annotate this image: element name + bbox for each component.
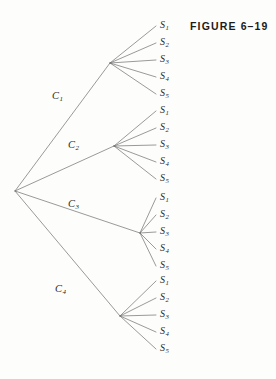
tree-edge-C1-S2 [110,43,156,63]
leaf-label-C3-S5: S5 [160,260,168,270]
label-subscript: 5 [165,264,168,271]
tree-diagram-svg [0,0,276,379]
leaf-label-C2-S4: S4 [160,156,168,166]
label-subscript: 2 [165,41,168,48]
label-subscript: 2 [165,126,168,133]
label-subscript: 3 [165,58,168,65]
tree-edge-C4-S2 [120,298,156,316]
label-subscript: 5 [165,92,168,99]
leaf-label-C4-S3: S3 [160,309,168,319]
label-base: C [55,283,62,294]
tree-edge-C2-S1 [114,111,156,146]
tree-edge-C4-S3 [120,315,156,316]
leaf-label-C3-S1: S1 [160,192,168,202]
tree-edge-C3-S2 [140,215,156,233]
leaf-label-C4-S5: S5 [160,343,168,353]
leaf-label-C2-S5: S5 [160,173,168,183]
label-subscript: 3 [165,230,168,237]
leaf-label-C1-S3: S3 [160,54,168,64]
label-subscript: 2 [165,213,168,220]
leaf-label-C1-S1: S1 [160,20,168,30]
label-subscript: 3 [165,143,168,150]
tree-edge-root-C3 [15,191,140,233]
leaf-label-C4-S4: S4 [160,326,168,336]
label-subscript: 1 [165,279,168,286]
tree-edge-root-C2 [15,146,114,191]
label-subscript: 4 [165,247,168,254]
label-subscript: 4 [165,160,168,167]
label-subscript: 1 [165,196,168,203]
label-subscript: 4 [62,288,66,296]
leaf-label-C2-S1: S1 [160,105,168,115]
leaf-label-C1-S5: S5 [160,88,168,98]
branch-label-C2: C2 [68,140,79,151]
label-subscript: 2 [165,296,168,303]
label-subscript: 1 [165,24,168,31]
label-subscript: 3 [75,203,79,211]
tree-edge-C2-S3 [114,145,156,146]
label-subscript: 1 [165,109,168,116]
branch-label-C4: C4 [55,284,66,295]
tree-edge-C3-S5 [140,233,156,266]
label-base: C [68,198,75,209]
tree-edge-C4-S4 [120,316,156,332]
label-base: C [68,139,75,150]
label-subscript: 5 [165,347,168,354]
label-subscript: 3 [165,313,168,320]
tree-edge-C1-S1 [110,26,156,63]
tree-edge-C2-S5 [114,146,156,179]
label-base: C [52,90,59,101]
tree-edge-C3-S1 [140,198,156,233]
label-subscript: 4 [165,330,168,337]
tree-edge-C3-S4 [140,233,156,249]
figure-container: C1C2C3C4 S1S2S3S4S5S1S2S3S4S5S1S2S3S4S5S… [0,0,276,379]
leaf-label-C1-S4: S4 [160,71,168,81]
leaf-label-C2-S3: S3 [160,139,168,149]
leaf-label-C4-S1: S1 [160,275,168,285]
tree-edge-root-C4 [15,191,120,316]
label-subscript: 5 [165,177,168,184]
leaf-label-C2-S2: S2 [160,122,168,132]
leaf-label-C3-S2: S2 [160,209,168,219]
tree-edge-C4-S1 [120,281,156,316]
leaf-label-C3-S4: S4 [160,243,168,253]
tree-edge-C1-S5 [110,63,156,94]
leaf-label-C4-S2: S2 [160,292,168,302]
leaf-label-C3-S3: S3 [160,226,168,236]
figure-caption: FIGURE 6–19 [190,20,269,32]
branch-label-C1: C1 [52,91,63,102]
tree-edge-root-C1 [15,63,110,191]
branch-label-C3: C3 [68,199,79,210]
tree-edge-C3-S3 [140,232,156,233]
tree-edge-C2-S2 [114,128,156,146]
tree-edges [15,26,156,349]
tree-edge-C2-S4 [114,146,156,162]
label-subscript: 2 [75,144,79,152]
tree-edge-C1-S4 [110,63,156,77]
leaf-label-C1-S2: S2 [160,37,168,47]
label-subscript: 1 [59,95,63,103]
tree-edge-C1-S3 [110,60,156,63]
label-subscript: 4 [165,75,168,82]
tree-edge-C4-S5 [120,316,156,349]
